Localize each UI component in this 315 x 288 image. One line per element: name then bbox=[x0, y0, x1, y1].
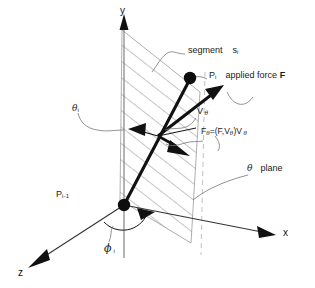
phi-angle-arc bbox=[104, 208, 155, 230]
theta-i-subscript: i bbox=[77, 107, 79, 113]
segment-symbol-subscript: i bbox=[237, 49, 239, 55]
point-p-i bbox=[184, 72, 196, 84]
segment-text: segment bbox=[188, 45, 223, 55]
applied-force-text: applied force bbox=[226, 70, 278, 80]
v-theta-label: Vθ bbox=[197, 107, 208, 116]
f-theta-rhs-subscript: θ bbox=[243, 130, 247, 136]
z-axis bbox=[28, 205, 124, 268]
theta-i-leader bbox=[78, 113, 124, 131]
segment-label: segment si bbox=[188, 46, 239, 56]
f-theta-formula: Fθ=(F,Vθ)Vθ bbox=[201, 127, 247, 137]
phi-i-symbol: ϕ bbox=[104, 242, 112, 255]
applied-force-label: Pi applied force F bbox=[209, 71, 285, 81]
f-theta-close: )V bbox=[233, 126, 242, 136]
theta-plane-label: θ plane bbox=[247, 164, 282, 173]
theta-plane-leader bbox=[193, 175, 248, 200]
point-p-i-minus-1 bbox=[118, 199, 130, 211]
p-i-minus-1-subscript: i-1 bbox=[62, 193, 69, 199]
f-theta-eq: =(F,V bbox=[210, 126, 230, 136]
phi-i-label: ϕi bbox=[104, 243, 115, 255]
v-theta-subscript: θ bbox=[205, 109, 209, 116]
force-decomposition-figure: y x z segment si Pi applied force F Vθ F… bbox=[0, 0, 315, 288]
point-p-i-minus-1-label: Pi-1 bbox=[56, 190, 69, 200]
phi-i-subscript: i bbox=[114, 248, 116, 254]
force-vector-symbol: F bbox=[280, 70, 286, 80]
theta-plane-symbol: θ bbox=[247, 163, 252, 173]
x-axis-label: x bbox=[283, 228, 288, 238]
y-axis-label: y bbox=[120, 6, 125, 16]
x-axis bbox=[124, 205, 276, 238]
diagram-canvas bbox=[0, 0, 315, 288]
theta-plane-text: plane bbox=[260, 163, 282, 173]
z-axis-label: z bbox=[18, 268, 23, 278]
v-theta-base: V bbox=[197, 106, 203, 116]
theta-i-label: θi bbox=[72, 104, 79, 114]
p-i-point-subscript: i bbox=[215, 74, 217, 80]
